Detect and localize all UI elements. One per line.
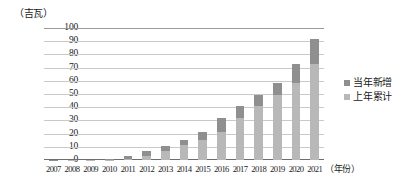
legend-item-new-additions: 当年新增 <box>344 77 392 88</box>
x-axis-tick: 2015 <box>193 161 212 177</box>
bar-segment-prior-cumulative <box>292 83 301 160</box>
bar-slot <box>156 28 175 160</box>
x-axis-tick: 2020 <box>287 161 306 177</box>
bar-segment-new-additions <box>217 118 226 133</box>
bar-series-group <box>44 28 324 160</box>
bar-segment-new-additions <box>273 83 282 95</box>
bar-segment-new-additions <box>292 64 301 84</box>
stacked-bar <box>254 95 263 160</box>
bar-slot <box>100 28 119 160</box>
x-axis-tick: 2012 <box>137 161 156 177</box>
legend-item-prior-cumulative: 上年累计 <box>344 91 392 102</box>
bar-slot <box>212 28 231 160</box>
bar-segment-prior-cumulative <box>198 140 207 160</box>
bar-slot <box>175 28 194 160</box>
bar-segment-prior-cumulative <box>236 118 245 160</box>
legend-label-new-additions: 当年新增 <box>353 77 392 88</box>
bar-segment-prior-cumulative <box>310 64 319 160</box>
stacked-bar <box>310 39 319 160</box>
stacked-bar <box>105 159 114 160</box>
x-axis-tick: 2008 <box>63 161 82 177</box>
bar-slot <box>287 28 306 160</box>
x-axis-tick: 2011 <box>119 161 138 177</box>
bar-slot <box>137 28 156 160</box>
bar-slot <box>81 28 100 160</box>
bar-segment-new-additions <box>254 95 263 106</box>
stacked-bar <box>198 132 207 160</box>
stacked-bar <box>217 118 226 160</box>
stacked-bar <box>273 83 282 160</box>
legend-label-prior-cumulative: 上年累计 <box>353 91 392 102</box>
bar-segment-prior-cumulative <box>254 106 263 160</box>
x-axis-tick: 2007 <box>44 161 63 177</box>
x-axis-tick: 2013 <box>156 161 175 177</box>
bar-slot <box>63 28 82 160</box>
x-axis-tick: 2021 <box>305 161 324 177</box>
stacked-bar <box>292 64 301 160</box>
bar-segment-prior-cumulative <box>273 95 282 160</box>
y-axis-unit-label: （吉瓦） <box>14 5 53 20</box>
stacked-bar <box>142 151 151 160</box>
x-axis-tick: 2010 <box>100 161 119 177</box>
x-axis-tick: 2014 <box>175 161 194 177</box>
bar-segment-prior-cumulative <box>180 145 189 160</box>
stacked-bar <box>180 140 189 160</box>
bar-segment-new-additions <box>198 132 207 140</box>
bar-slot <box>268 28 287 160</box>
bar-slot <box>231 28 250 160</box>
bar-slot <box>305 28 324 160</box>
x-axis-tick: 2018 <box>249 161 268 177</box>
plot-area <box>44 28 324 160</box>
bar-slot <box>193 28 212 160</box>
bar-segment-prior-cumulative <box>161 151 170 160</box>
legend-swatch-prior-cumulative <box>344 94 350 100</box>
bar-slot <box>249 28 268 160</box>
bar-segment-new-additions <box>310 39 319 64</box>
x-axis-tick: 2009 <box>81 161 100 177</box>
stacked-bar <box>124 156 133 160</box>
bar-segment-prior-cumulative <box>217 132 226 160</box>
x-axis-tick-labels: 2007200820092010201120122013201420152016… <box>44 161 324 177</box>
stacked-bar <box>161 146 170 161</box>
x-axis-tick: 2019 <box>268 161 287 177</box>
legend-swatch-new-additions <box>344 80 350 86</box>
x-axis-tick: 2017 <box>231 161 250 177</box>
x-axis-tick: 2016 <box>212 161 231 177</box>
bar-slot <box>119 28 138 160</box>
chart-legend: 当年新增 上年累计 <box>344 77 392 102</box>
chart-container: （吉瓦） 1009080706050403020100 200720082009… <box>0 0 405 189</box>
bar-segment-new-additions <box>236 106 245 118</box>
bar-segment-prior-cumulative <box>124 159 133 160</box>
stacked-bar <box>236 106 245 160</box>
x-axis-title: （年份） <box>325 161 360 177</box>
bar-segment-prior-cumulative <box>142 156 151 160</box>
bar-slot <box>44 28 63 160</box>
